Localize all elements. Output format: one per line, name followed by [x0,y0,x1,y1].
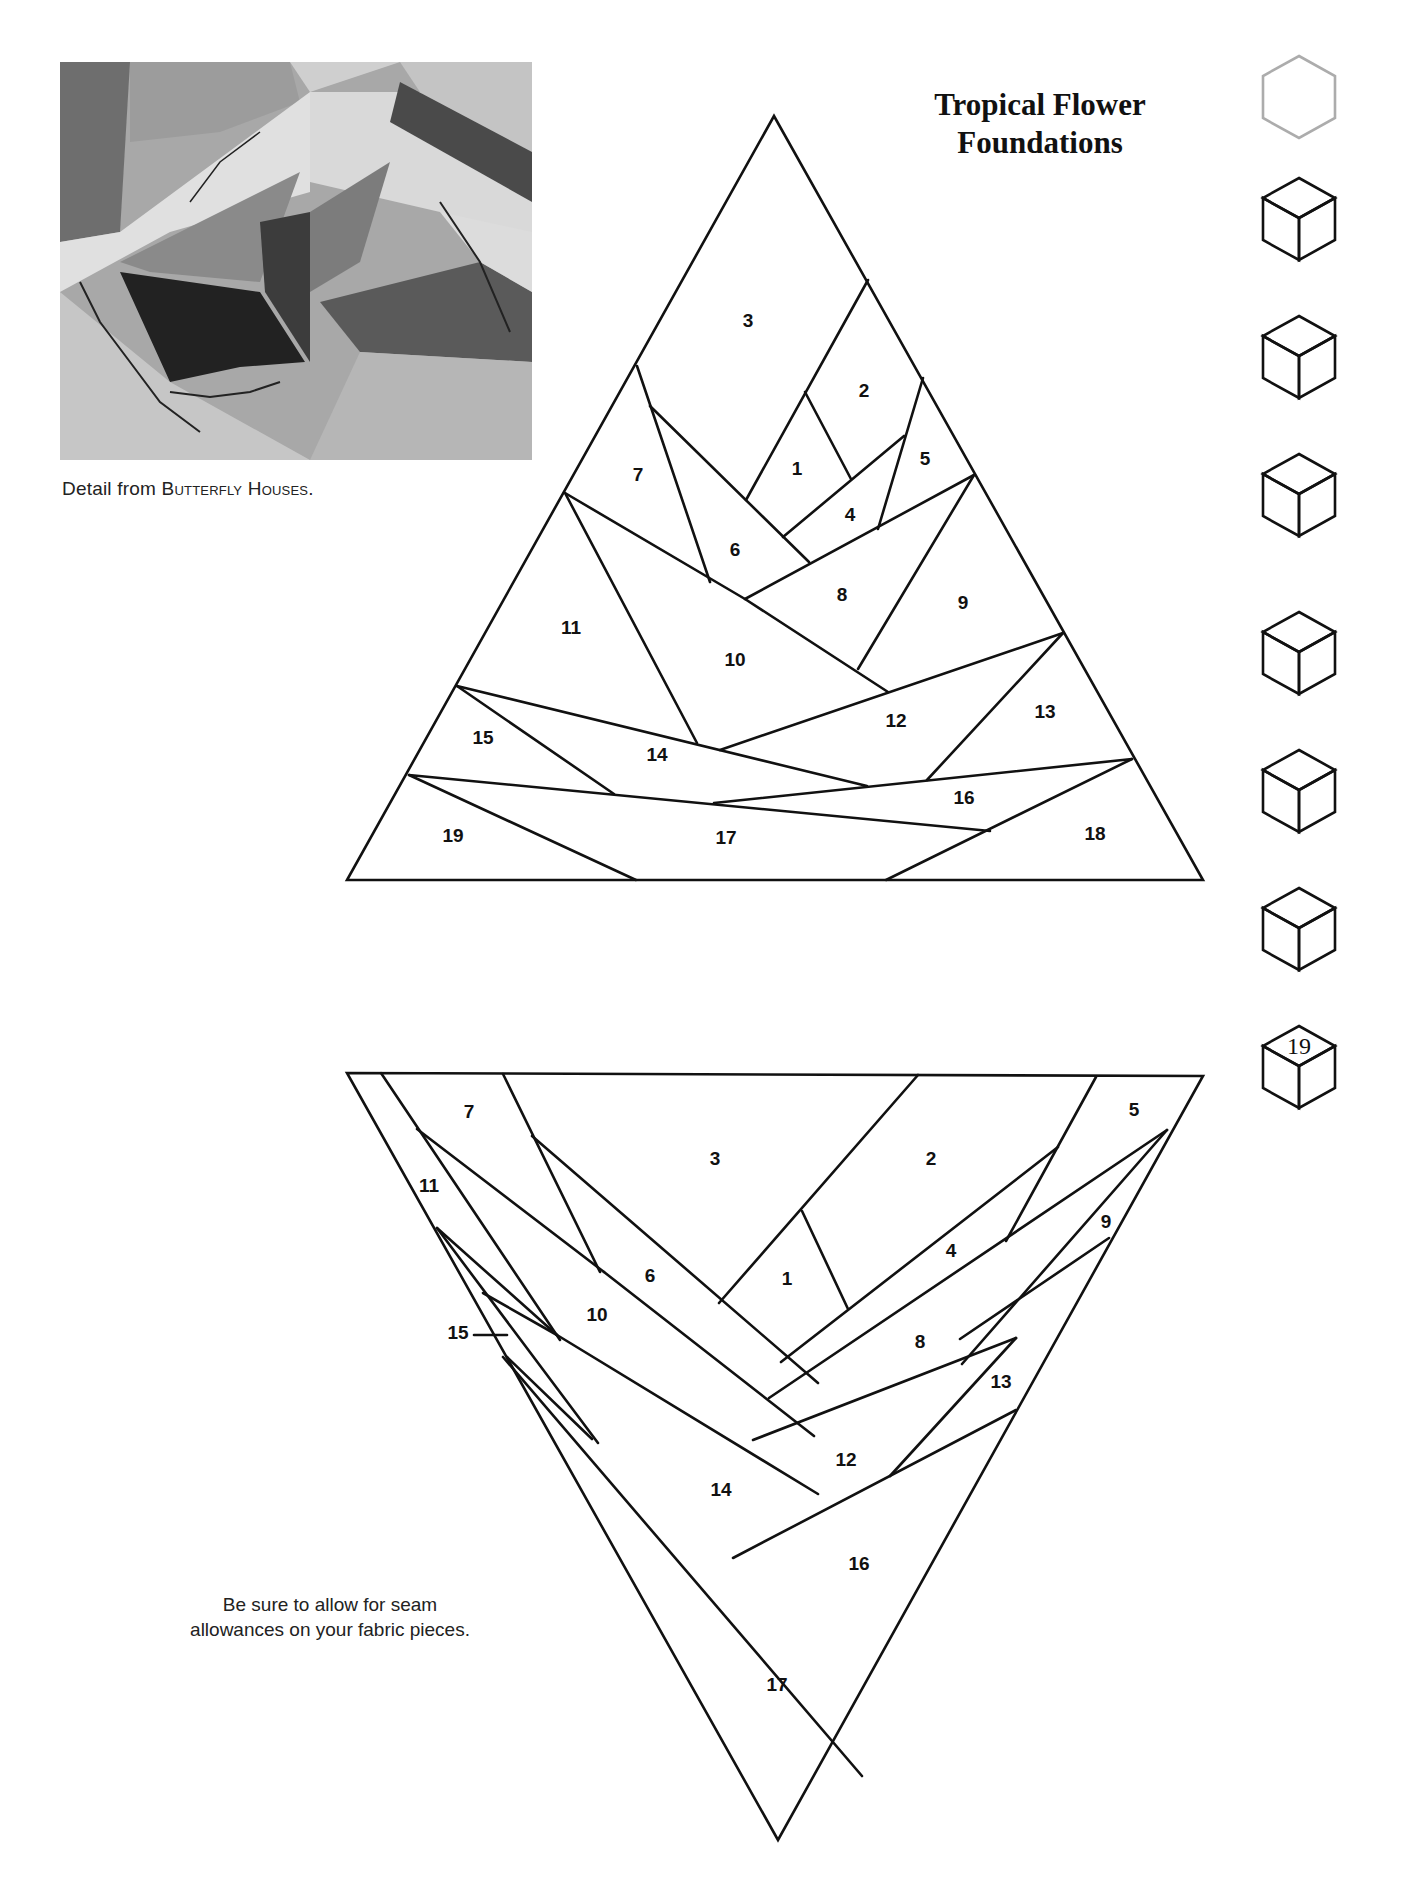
top-piece-15: 15 [472,727,494,748]
bottom-piece-8: 8 [915,1331,926,1352]
top-piece-11: 11 [561,617,582,638]
bottom-piece-11: 11 [419,1175,440,1196]
bottom-piece-1: 1 [782,1268,793,1289]
top-piece-19: 19 [442,825,463,846]
chapter-tab-6[interactable] [1263,750,1335,832]
top-piece-12: 12 [885,710,906,731]
chapter-tab-1[interactable] [1263,56,1335,138]
bottom-piece-2: 2 [926,1148,937,1169]
bottom-piece-14: 14 [710,1479,732,1500]
top-piece-10: 10 [724,649,745,670]
bottom-piece-16: 16 [848,1553,869,1574]
bottom-piece-labels: 1 2 3 4 5 6 7 8 9 10 11 12 13 14 15 16 1… [419,1099,1140,1695]
chapter-tab-5[interactable] [1263,612,1335,694]
top-piece-1: 1 [792,458,803,479]
note-line-1: Be sure to allow for seam [140,1592,520,1617]
bottom-piece-17: 17 [766,1674,787,1695]
top-piece-6: 6 [730,539,741,560]
bottom-piece-15: 15 [447,1322,469,1343]
top-piece-2: 2 [859,380,870,401]
bottom-foundation-pattern: 1 2 3 4 5 6 7 8 9 10 11 12 13 14 15 16 1… [347,1073,1203,1840]
bottom-piece-9: 9 [1101,1211,1112,1232]
top-piece-labels: 1 2 3 4 5 6 7 8 9 10 11 12 13 14 15 16 1… [442,310,1105,848]
bottom-piece-10: 10 [586,1304,607,1325]
top-piece-4: 4 [845,504,856,525]
top-piece-13: 13 [1034,701,1055,722]
chapter-tab-3[interactable] [1263,316,1335,398]
chapter-tab-4[interactable] [1263,454,1335,536]
chapter-tab-8-current[interactable]: 19 [1263,1026,1335,1108]
bottom-piece-7: 7 [464,1101,475,1122]
top-piece-9: 9 [958,592,969,613]
bottom-piece-4: 4 [946,1240,957,1261]
bottom-piece-3: 3 [710,1148,721,1169]
top-piece-18: 18 [1084,823,1105,844]
chapter-tabs: 19 [1263,56,1335,1108]
chapter-tab-2[interactable] [1263,178,1335,260]
bottom-piece-6: 6 [645,1265,656,1286]
top-piece-16: 16 [953,787,974,808]
chapter-tab-number: 19 [1287,1033,1311,1059]
seam-allowance-note: Be sure to allow for seam allowances on … [140,1592,520,1642]
bottom-piece-13: 13 [990,1371,1011,1392]
bottom-piece-12: 12 [835,1449,856,1470]
bottom-triangle-outline [347,1073,1203,1840]
note-line-2: allowances on your fabric pieces. [140,1617,520,1642]
top-piece-5: 5 [920,448,931,469]
top-foundation-pattern: 1 2 3 4 5 6 7 8 9 10 11 12 13 14 15 16 1… [347,116,1203,880]
top-piece-14: 14 [646,744,668,765]
top-piece-17: 17 [715,827,736,848]
chapter-tab-7[interactable] [1263,888,1335,970]
bottom-piece-5: 5 [1129,1099,1140,1120]
top-piece-7: 7 [633,464,644,485]
top-piece-3: 3 [743,310,754,331]
top-piece-8: 8 [837,584,848,605]
